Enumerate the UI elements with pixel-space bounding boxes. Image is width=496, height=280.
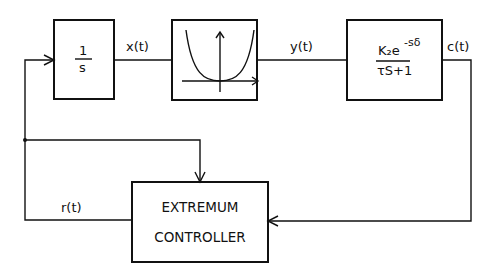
nonlinearity-block [172, 20, 257, 100]
plant-exponent: -sδ [404, 36, 420, 49]
plant-numerator: K₂e [378, 43, 400, 58]
controller-label-line2: CONTROLLER [132, 222, 268, 253]
plant-denominator: τS+1 [377, 63, 412, 78]
r-signal-label: r(t) [61, 200, 82, 215]
integrator-numerator: 1 [79, 43, 87, 58]
c-signal-line [268, 60, 471, 221]
controller-label-line1: EXTREMUM [132, 192, 268, 223]
plant-block [347, 20, 442, 100]
junction-dot [23, 138, 27, 142]
x-signal-label: x(t) [126, 39, 149, 54]
integrator-denominator: s [79, 60, 86, 75]
c-signal-label: c(t) [447, 39, 469, 54]
r-branch-line [25, 140, 200, 182]
y-signal-label: y(t) [290, 39, 313, 54]
